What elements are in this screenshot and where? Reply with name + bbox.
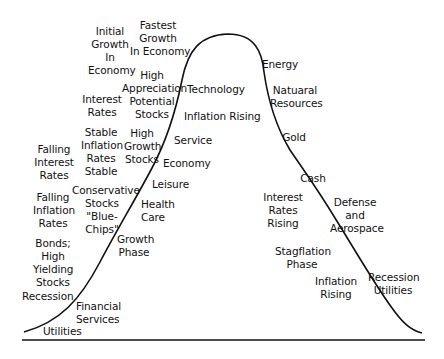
business-cycle-diagram: Initial Growth In EconomyFastest Growth … xyxy=(0,0,444,359)
label-high-appreciation: High Appreciation Potential Stocks xyxy=(122,69,182,121)
label-economy: Economy xyxy=(163,157,207,170)
label-conservative-stocks: Conservative Stocks "Blue- Chips" xyxy=(72,184,132,236)
label-recession-left: Recession xyxy=(22,290,68,303)
label-bonds: Bonds; High Yielding Stocks xyxy=(33,237,73,289)
label-financial-services: Financial Services xyxy=(76,300,116,326)
label-service: Service xyxy=(174,134,208,147)
label-falling-interest: Falling Interest Rates xyxy=(34,143,74,182)
label-stagflation-phase: Stagflation Phase xyxy=(275,245,329,271)
label-energy: Energy xyxy=(262,58,298,71)
label-gold: Gold xyxy=(281,131,307,144)
label-recession-utilities: Recession Utilities xyxy=(368,271,418,297)
label-health-care: Health Care xyxy=(141,198,173,224)
label-fastest-growth: Fastest Growth In Economy xyxy=(130,19,186,58)
label-interest-rates: Interest Rates xyxy=(82,93,122,119)
label-high-growth-stocks: High Growth Stocks xyxy=(124,127,160,166)
label-stable-inflation: Stable Inflation Rates Stable xyxy=(81,126,121,178)
label-leisure: Leisure xyxy=(152,178,188,191)
label-inflation-rising-bottom: Inflation Rising xyxy=(315,275,357,301)
label-interest-rates-rising: Interest Rates Rising xyxy=(263,191,303,230)
label-natural-resources: Natuaral Resources xyxy=(270,84,320,110)
label-cash: Cash xyxy=(300,172,326,185)
label-utilities-left: Utilities xyxy=(43,325,79,338)
label-falling-inflation: Falling Inflation Rates xyxy=(33,191,73,230)
label-technology: Technology xyxy=(187,83,242,96)
label-growth-phase: Growth Phase xyxy=(117,233,151,259)
label-defense-aerospace: Defense and Aerospace xyxy=(330,196,380,235)
label-inflation-rising-top: Inflation Rising xyxy=(184,110,256,123)
